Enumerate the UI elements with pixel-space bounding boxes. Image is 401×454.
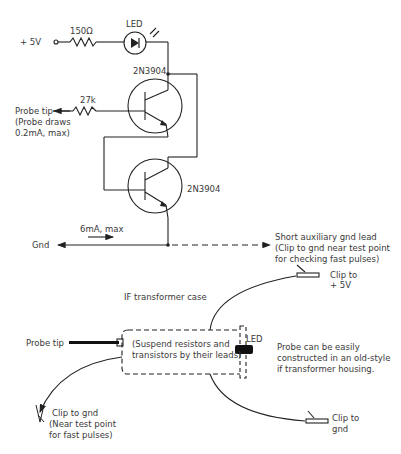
transistor-top-label: 2N3904: [133, 66, 166, 76]
clip-near-3: for fast pulses): [49, 430, 113, 440]
led-label: LED: [126, 19, 143, 29]
clip-near-1: Clip to gnd: [52, 408, 98, 418]
housing-note-1: Probe can be easily: [277, 342, 360, 352]
supply-terminal: [54, 40, 58, 44]
resistor-27k-icon: [73, 107, 96, 115]
transistor-bottom-icon: [128, 159, 182, 213]
supply-label: + 5V: [20, 37, 41, 47]
circuit-diagram: [0, 0, 401, 454]
clip-near-2: (Near test point: [49, 419, 116, 429]
aux-gnd-1: Short auxiliary gnd lead: [275, 232, 377, 242]
clip-gnd-icon: [306, 419, 328, 423]
probe-note-1: (Probe draws: [15, 117, 71, 127]
clip-gnd-label-2: gnd: [332, 424, 348, 434]
current-label: 6mA, max: [80, 224, 123, 234]
gnd-label: Gnd: [32, 240, 49, 250]
aux-gnd-2: (Clip to gnd near test point: [275, 243, 390, 253]
suspend-note-1: (Suspend resistors and: [132, 339, 230, 349]
probe-tip-label: Probe tip: [15, 106, 53, 116]
suspend-note-2: transistors by their leads): [132, 350, 241, 360]
transistor-bottom-label: 2N3904: [187, 184, 220, 194]
probe-tip-rod: [69, 341, 119, 344]
housing-note-3: if transformer housing.: [277, 364, 374, 374]
clip-5v-label-2: + 5V: [330, 280, 351, 290]
transistor-top-icon: [128, 79, 182, 133]
clip-5v-label-1: Clip to: [330, 270, 357, 280]
assembly-probe-tip: Probe tip: [26, 338, 64, 348]
clip-gnd-label-1: Clip to: [332, 413, 359, 423]
clip-near-icon: [36, 405, 44, 422]
clip-5v-icon: [297, 273, 319, 277]
probe-note-2: 0.2mA, max): [15, 128, 70, 138]
housing-note-2: constructed in an old-style: [277, 353, 390, 363]
resistor-150-label: 150Ω: [70, 26, 93, 36]
aux-gnd-3: for checking fast pulses): [275, 254, 379, 264]
assembly-led-label: LED: [246, 334, 263, 344]
case-label: IF transformer case: [124, 292, 207, 302]
resistor-150-icon: [70, 38, 96, 46]
resistor-27k-label: 27k: [80, 95, 96, 105]
